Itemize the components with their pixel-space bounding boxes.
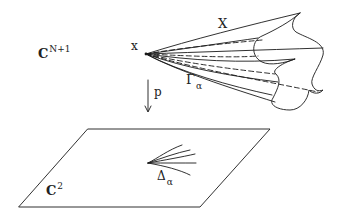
image-branch-subscript: α — [167, 177, 173, 187]
projection-label: p — [154, 86, 162, 98]
boundary-curve — [254, 13, 324, 110]
image-branch-label: Δα — [157, 170, 173, 182]
cone-ruling — [146, 54, 295, 61]
ambient-space-superscript: N+1 — [49, 44, 70, 54]
cone-branch-base: Γ — [186, 72, 195, 87]
plane-base: C — [46, 183, 56, 198]
cone-branch-subscript: α — [196, 81, 202, 91]
variety-label: X — [218, 17, 227, 30]
plane-label: C2 — [46, 184, 63, 197]
cone-ruling — [146, 48, 323, 54]
apex-point — [145, 53, 148, 56]
cone-branch-label: Γα — [186, 73, 202, 86]
ambient-space-label: CN+1 — [38, 47, 71, 60]
ambient-space-base: C — [38, 46, 48, 61]
image-branch-base: Δ — [157, 169, 166, 183]
plane-superscript: 2 — [57, 181, 63, 191]
point-label: x — [131, 40, 138, 52]
diagram-canvas: CN+1 x X p Γα C2 Δα — [0, 0, 345, 219]
